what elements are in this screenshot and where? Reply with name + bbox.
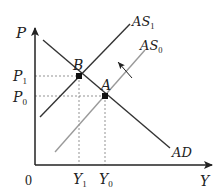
x-axis-label: Y [200,173,211,189]
as0-curve [55,50,145,152]
as0-label: AS0 [139,38,163,55]
point-b-label: B [72,57,83,73]
point-a-marker [102,93,108,99]
guide-lines [35,76,105,165]
shift-arrow [118,62,132,78]
origin-label: 0 [25,173,32,188]
y1-label: Y1 [73,171,87,189]
p1-label: P1 [12,68,27,86]
ad-label: AD [171,145,192,160]
as-ad-diagram: P Y 0 P1 P0 Y1 Y0 B A AD AS1 AS0 [0,0,223,190]
point-b-marker [76,73,82,79]
point-a-label: A [99,77,111,93]
y-axis-label: P [15,24,27,42]
as1-label: AS1 [131,14,155,31]
y0-label: Y0 [99,171,113,189]
p0-label: P0 [12,89,27,107]
